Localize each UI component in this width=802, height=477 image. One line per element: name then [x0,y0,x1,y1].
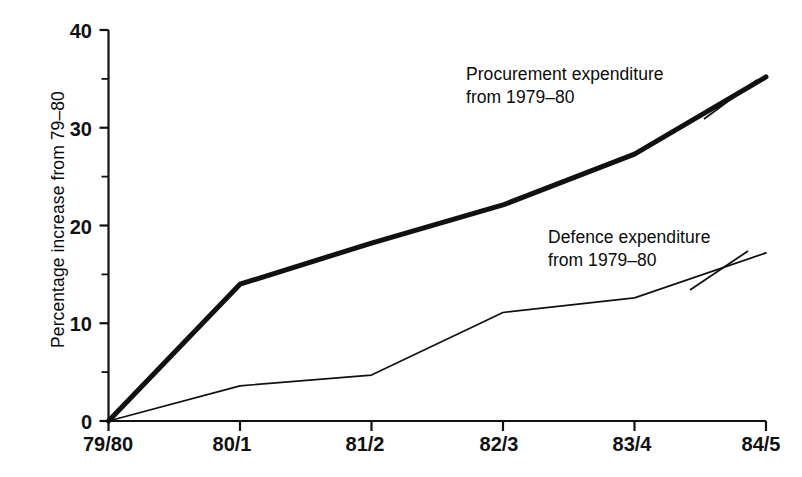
y-tick-marks [100,30,109,421]
defence-leader-line [690,251,748,290]
x-tick-marks [109,421,767,431]
procurement-leader-line [704,80,757,119]
plot-area [0,0,802,477]
defence-expenditure-line [109,253,767,421]
chart-figure: Percentage increase from 79–80 40 30 20 … [0,0,802,477]
data-series-layer [109,77,767,421]
procurement-expenditure-line [109,77,767,421]
